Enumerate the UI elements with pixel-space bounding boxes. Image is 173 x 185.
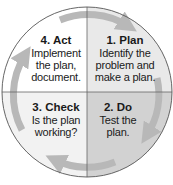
act-text-line: the plan, xyxy=(24,59,88,71)
check-text-line: Is the plan xyxy=(24,114,88,126)
plan-text-line: problem and xyxy=(90,59,160,71)
do-title: 2. Do xyxy=(88,101,148,113)
act-text-line: Implement xyxy=(24,47,88,59)
quadrant-do-label: 2. Do Test the plan. xyxy=(88,101,148,138)
quadrant-check-label: 3. Check Is the plan working? xyxy=(24,101,88,138)
act-title: 4. Act xyxy=(24,34,88,46)
plan-text-line: make a plan. xyxy=(90,71,160,83)
check-title: 3. Check xyxy=(24,101,88,113)
pdca-cycle-diagram xyxy=(0,0,173,185)
do-text-line: Test the xyxy=(88,114,148,126)
quadrant-plan-label: 1. Plan Identify the problem and make a … xyxy=(90,34,160,83)
check-text-line: working? xyxy=(24,126,88,138)
act-text-line: document. xyxy=(24,71,88,83)
do-text-line: plan. xyxy=(88,126,148,138)
quadrant-act-label: 4. Act Implement the plan, document. xyxy=(24,34,88,83)
plan-text-line: Identify the xyxy=(90,47,160,59)
plan-title: 1. Plan xyxy=(90,34,160,46)
